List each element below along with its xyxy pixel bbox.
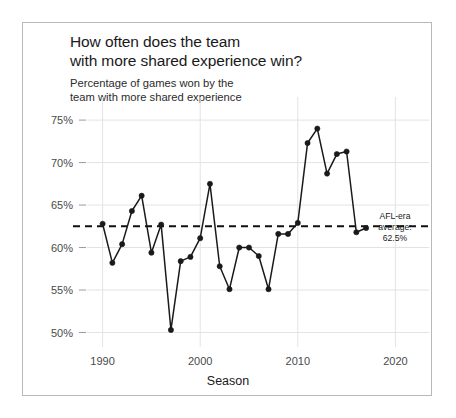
data-point: [295, 220, 300, 225]
x-tick-label: 2000: [188, 355, 212, 367]
series-line: [103, 129, 367, 330]
data-point: [198, 236, 203, 241]
chart-figure: How often does the team with more shared…: [22, 22, 432, 396]
x-tick-label: 1990: [90, 355, 114, 367]
data-point: [237, 245, 242, 250]
y-tick-label: 75%: [51, 114, 73, 126]
y-tick-label: 65%: [51, 199, 73, 211]
data-point: [256, 253, 261, 258]
data-point: [364, 225, 369, 230]
x-axis-title: Season: [207, 374, 249, 388]
data-points: [100, 126, 369, 333]
data-point: [129, 208, 134, 213]
data-point: [354, 230, 359, 235]
y-tick-label: 60%: [51, 242, 73, 254]
data-point: [139, 193, 144, 198]
data-point: [188, 254, 193, 259]
x-tick-label: 2020: [383, 355, 407, 367]
data-point: [324, 171, 329, 176]
data-point: [178, 259, 183, 264]
plot-area: 50%55%60%65%70%75% 1990200020102020 AFL-…: [23, 23, 433, 397]
data-line: [103, 129, 367, 330]
data-point: [305, 140, 310, 145]
data-point: [227, 287, 232, 292]
data-point: [120, 242, 125, 247]
y-tick-marks: [79, 120, 86, 332]
reference-annotation: AFL-eraaverage:62.5%: [378, 211, 411, 243]
line-chart-svg: 50%55%60%65%70%75% 1990200020102020 AFL-…: [23, 23, 433, 397]
data-point: [110, 260, 115, 265]
data-point: [334, 151, 339, 156]
data-point: [266, 287, 271, 292]
y-tick-label: 50%: [51, 327, 73, 339]
data-point: [344, 149, 349, 154]
data-point: [285, 231, 290, 236]
data-point: [217, 264, 222, 269]
data-point: [159, 222, 164, 227]
y-tick-labels: 50%55%60%65%70%75%: [51, 114, 73, 338]
y-tick-label: 70%: [51, 157, 73, 169]
y-tick-label: 55%: [51, 284, 73, 296]
data-point: [246, 245, 251, 250]
data-point: [207, 181, 212, 186]
annotation-line: 62.5%: [383, 233, 408, 243]
data-point: [149, 250, 154, 255]
annotation-line: average:: [378, 222, 411, 232]
data-point: [276, 231, 281, 236]
x-tick-label: 2010: [286, 355, 310, 367]
data-point: [168, 327, 173, 332]
data-point: [315, 126, 320, 131]
data-point: [100, 221, 105, 226]
annotation-line: AFL-era: [379, 211, 410, 221]
x-tick-labels: 1990200020102020: [90, 355, 407, 367]
